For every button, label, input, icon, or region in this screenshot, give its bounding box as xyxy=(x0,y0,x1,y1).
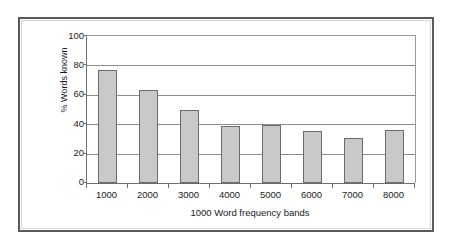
x-axis-tick-mark xyxy=(86,183,87,188)
bar[interactable] xyxy=(385,130,404,183)
x-tick-label: 5000 xyxy=(250,189,291,200)
figure-frame: % Words known 100 80 60 40 20 0 xyxy=(18,17,434,232)
bar[interactable] xyxy=(98,70,117,183)
x-tick-label: 4000 xyxy=(209,189,250,200)
x-axis-title: 1000 Word frequency bands xyxy=(86,207,414,218)
bar-chart: % Words known 100 80 60 40 20 0 xyxy=(20,19,436,234)
y-tick-label: 20 xyxy=(58,148,84,158)
bar-slot xyxy=(251,36,292,183)
bar[interactable] xyxy=(180,110,199,183)
y-tick-label: 0 xyxy=(58,177,84,187)
bar-slot xyxy=(87,36,128,183)
x-tick-label: 8000 xyxy=(373,189,414,200)
x-tick-label: 3000 xyxy=(168,189,209,200)
bar-slot xyxy=(128,36,169,183)
x-tick-label: 7000 xyxy=(332,189,373,200)
x-axis-tick-mark xyxy=(168,183,169,188)
x-axis-tick-labels: 1000 2000 3000 4000 5000 6000 7000 8000 xyxy=(86,189,414,200)
bar-slot xyxy=(169,36,210,183)
bar[interactable] xyxy=(303,131,322,183)
x-axis-tick-mark xyxy=(414,183,415,188)
bar-slot xyxy=(333,36,374,183)
bar[interactable] xyxy=(221,126,240,183)
y-tick-label: 60 xyxy=(58,89,84,99)
x-tick-label: 2000 xyxy=(127,189,168,200)
x-axis-tick-mark xyxy=(209,183,210,188)
x-axis-tick-mark xyxy=(127,183,128,188)
bar-series xyxy=(87,36,415,183)
x-axis-tick-mark xyxy=(250,183,251,188)
plot-area xyxy=(86,35,416,183)
x-tick-label: 6000 xyxy=(291,189,332,200)
x-axis-tick-mark xyxy=(373,183,374,188)
y-tick-label: 80 xyxy=(58,60,84,70)
y-tick-label: 100 xyxy=(58,31,84,41)
y-tick-label: 40 xyxy=(58,119,84,129)
bar[interactable] xyxy=(139,90,158,183)
x-axis-tick-mark xyxy=(291,183,292,188)
x-tick-label: 1000 xyxy=(86,189,127,200)
bar-slot xyxy=(374,36,415,183)
x-axis-tick-mark xyxy=(332,183,333,188)
y-axis-tick-labels: 100 80 60 40 20 0 xyxy=(54,19,84,234)
bar-slot xyxy=(210,36,251,183)
bar[interactable] xyxy=(344,138,363,183)
bar-slot xyxy=(292,36,333,183)
bar[interactable] xyxy=(262,125,281,183)
